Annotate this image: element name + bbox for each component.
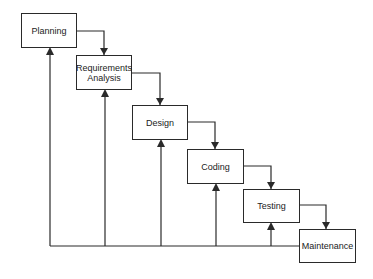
arrow-testing-to-maintenance: [299, 205, 326, 229]
stage-requirements-analysis: Requirements Analysis: [76, 55, 132, 90]
stage-label: Planning: [31, 26, 66, 36]
arrow-coding-to-testing: [243, 166, 271, 189]
arrowhead-down: [211, 142, 219, 149]
arrow-requirements-to-design: [131, 73, 160, 105]
arrowhead-down: [322, 222, 330, 229]
arrow-design-to-coding: [187, 122, 215, 149]
stage-label: Requirements Analysis: [76, 63, 132, 83]
stage-label: Design: [146, 118, 174, 128]
arrow-planning-to-requirements: [76, 31, 104, 55]
stage-maintenance: Maintenance: [299, 229, 356, 263]
stage-coding: Coding: [187, 149, 244, 184]
stage-planning: Planning: [21, 13, 77, 48]
stage-label: Maintenance: [302, 241, 354, 251]
arrowhead-up: [46, 47, 54, 55]
arrowhead-down: [156, 98, 164, 105]
arrowhead-down: [267, 182, 275, 189]
arrowhead-up: [267, 222, 275, 230]
arrowhead-up: [212, 183, 220, 191]
stage-label: Testing: [257, 201, 286, 211]
arrowhead-up: [157, 139, 165, 147]
stage-design: Design: [132, 105, 188, 140]
arrowhead-down: [100, 48, 108, 55]
stage-label: Coding: [201, 162, 230, 172]
stage-testing: Testing: [243, 189, 300, 223]
arrowhead-up: [101, 89, 109, 97]
